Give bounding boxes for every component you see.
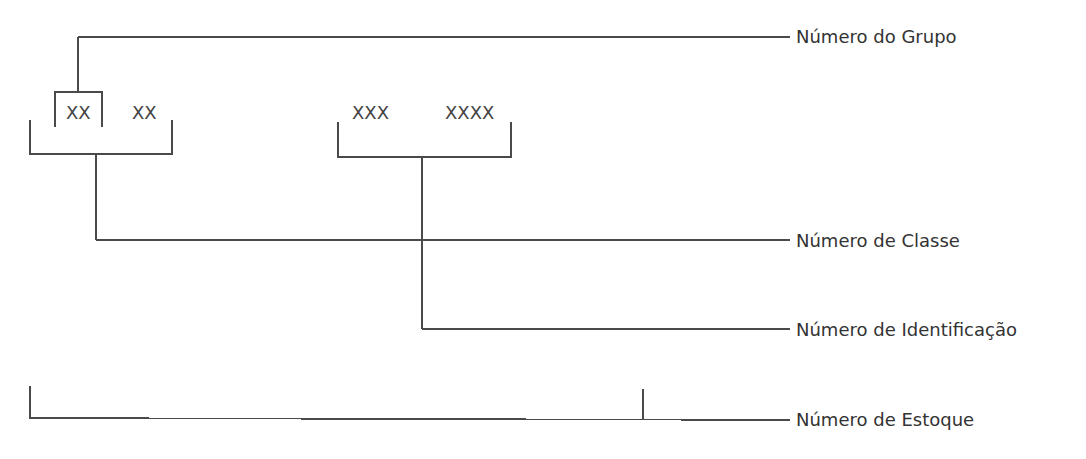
identification-code-part1: XXX [352, 102, 389, 124]
class-number-label: Número de Classe [796, 230, 960, 252]
group-code: XX [66, 102, 91, 124]
identification-number-label: Número de Identificação [796, 319, 1017, 341]
stock-bracket [30, 386, 790, 420]
group-connector [55, 37, 790, 127]
class-code: XX [132, 102, 157, 124]
class-bracket [30, 120, 790, 240]
identification-bracket [338, 122, 790, 329]
stock-number-label: Número de Estoque [796, 409, 974, 431]
group-number-label: Número do Grupo [796, 26, 957, 48]
identification-code-part2: XXXX [445, 102, 494, 124]
